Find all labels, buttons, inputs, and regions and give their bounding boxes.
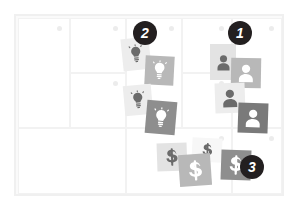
board-cell <box>18 18 70 128</box>
person-icon <box>214 53 233 72</box>
badge-label: 1 <box>236 26 244 40</box>
illustration-canvas: 123 <box>0 0 298 210</box>
cluster-badge-3[interactable]: 3 <box>240 155 264 179</box>
dollar-icon <box>183 158 208 183</box>
cluster-badge-2[interactable]: 2 <box>133 21 157 45</box>
cell-marker-dot <box>113 81 118 86</box>
cell-marker-dot <box>269 136 274 141</box>
person-icon <box>235 62 257 84</box>
idea-card-4[interactable] <box>145 100 178 135</box>
badge-label: 3 <box>248 160 256 174</box>
person-icon <box>242 107 265 130</box>
board-cell <box>18 128 126 194</box>
cluster-badge-1[interactable]: 1 <box>228 21 252 45</box>
money-card-3[interactable] <box>178 153 212 187</box>
cell-marker-dot <box>219 26 224 31</box>
cell-marker-dot <box>57 26 62 31</box>
cell-marker-dot <box>169 26 174 31</box>
badge-label: 2 <box>141 26 149 40</box>
cell-marker-dot <box>269 26 274 31</box>
person-card-4[interactable] <box>237 102 268 133</box>
lightbulb-icon <box>127 89 149 111</box>
cell-marker-dot <box>113 26 118 31</box>
idea-card-2[interactable] <box>144 55 174 85</box>
lightbulb-icon <box>148 59 170 81</box>
lightbulb-icon <box>125 43 147 65</box>
lightbulb-icon <box>149 106 173 130</box>
